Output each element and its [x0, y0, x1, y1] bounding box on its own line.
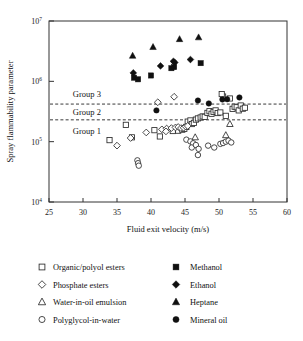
- legend-marker-methanol: [173, 264, 179, 270]
- data-point-heptane: [195, 34, 202, 40]
- data-point-organic-polyol-esters: [242, 105, 247, 110]
- data-point-polyglycol-in-water: [195, 152, 200, 157]
- chart-canvas: 2530354045505560104105106107Fluid exit v…: [0, 0, 303, 341]
- x-tick-label: 40: [147, 208, 155, 217]
- data-point-mineral-oil: [206, 101, 211, 106]
- group-annotation: Group 2: [73, 107, 101, 117]
- data-point-polyglycol-in-water: [136, 163, 141, 168]
- data-point-organic-polyol-esters: [219, 91, 224, 96]
- data-point-water-in-oil-emulsion: [192, 134, 199, 140]
- y-tick-label: 104: [31, 197, 42, 207]
- legend-marker-organic-polyol-esters: [39, 264, 45, 270]
- y-tick-label: 106: [31, 76, 42, 86]
- legend-label-polyglycol-in-water: Polyglycol-in-water: [53, 316, 120, 325]
- legend-marker-heptane: [172, 298, 179, 305]
- y-tick-label: 105: [31, 136, 42, 146]
- legend-marker-mineral-oil: [173, 316, 179, 322]
- y-tick-label: 107: [31, 16, 42, 26]
- data-point-ethanol: [187, 56, 194, 63]
- data-point-polyglycol-in-water: [229, 140, 234, 145]
- data-point-methanol: [135, 77, 140, 82]
- x-tick-label: 60: [283, 208, 291, 217]
- legend-label-ethanol: Ethanol: [190, 281, 217, 290]
- data-point-mineral-oil: [154, 108, 159, 113]
- data-point-phosphate-esters: [171, 93, 178, 100]
- data-point-water-in-oil-emulsion: [223, 132, 230, 138]
- data-point-organic-polyol-esters: [123, 122, 128, 127]
- legend-label-organic-polyol-esters: Organic/polyol esters: [53, 263, 125, 272]
- data-point-mineral-oil: [237, 95, 242, 100]
- data-point-heptane: [150, 44, 157, 50]
- data-point-ethanol: [157, 63, 164, 70]
- group-annotation: Group 1: [73, 126, 101, 136]
- data-point-phosphate-esters: [143, 129, 150, 136]
- data-point-methanol: [148, 73, 153, 78]
- y-axis-title: Spray flammability parameter: [5, 60, 15, 162]
- x-tick-label: 45: [181, 208, 189, 217]
- x-tick-label: 25: [45, 208, 53, 217]
- data-point-organic-polyol-esters: [107, 138, 112, 143]
- data-point-methanol: [198, 61, 203, 66]
- legend-marker-phosphate-esters: [38, 281, 46, 289]
- group-annotation: Group 3: [73, 89, 101, 99]
- data-point-organic-polyol-esters: [223, 113, 228, 118]
- data-point-mineral-oil: [224, 97, 229, 102]
- data-point-heptane: [129, 52, 136, 58]
- data-point-polyglycol-in-water: [196, 146, 201, 151]
- legend-marker-water-in-oil-emulsion: [38, 298, 45, 305]
- data-point-polyglycol-in-water: [212, 145, 217, 150]
- data-point-phosphate-esters: [154, 99, 161, 106]
- x-tick-label: 50: [215, 208, 223, 217]
- data-point-mineral-oil: [195, 98, 200, 103]
- legend-label-methanol: Methanol: [190, 263, 223, 272]
- data-point-heptane: [176, 36, 183, 42]
- legend-marker-polyglycol-in-water: [39, 316, 45, 322]
- data-point-organic-polyol-esters: [218, 110, 223, 115]
- data-point-organic-polyol-esters: [152, 128, 157, 133]
- x-tick-label: 35: [113, 208, 121, 217]
- data-point-phosphate-esters: [114, 142, 121, 149]
- legend-label-mineral-oil: Mineral oil: [190, 316, 228, 325]
- data-point-water-in-oil-emulsion: [227, 121, 234, 127]
- spray-flammability-figure: 2530354045505560104105106107Fluid exit v…: [0, 0, 303, 341]
- data-point-organic-polyol-esters: [157, 134, 162, 139]
- legend-label-water-in-oil-emulsion: Water-in-oil emulsion: [53, 298, 127, 307]
- legend-marker-ethanol: [172, 281, 180, 289]
- x-tick-label: 55: [249, 208, 257, 217]
- x-axis-title: Fluid exit velocity (m/s): [127, 224, 210, 234]
- data-point-polyglycol-in-water: [205, 143, 210, 148]
- x-tick-label: 30: [79, 208, 87, 217]
- legend-label-phosphate-esters: Phosphate esters: [53, 281, 109, 290]
- legend-label-heptane: Heptane: [190, 298, 218, 307]
